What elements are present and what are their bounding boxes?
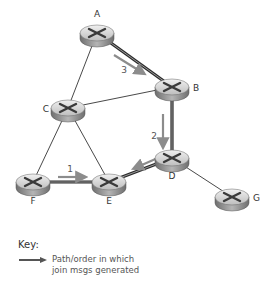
key-line-2: join msgs generated [52, 265, 139, 276]
join-order-label: 3 [121, 65, 127, 75]
router-label-B: B [193, 83, 199, 93]
router-A[interactable] [80, 25, 114, 47]
network-diagram: 123 ABCDEFG [0, 0, 277, 291]
join-order-label: 2 [151, 131, 157, 141]
router-C[interactable] [51, 100, 85, 122]
router-E[interactable] [92, 174, 126, 196]
router-label-D: D [169, 171, 176, 181]
router-B[interactable] [155, 79, 189, 101]
join-order-label: 1 [67, 164, 73, 174]
router-label-E: E [106, 196, 112, 206]
router-label-F: F [30, 196, 35, 206]
router-F[interactable] [16, 174, 50, 196]
key-title: Key: [18, 239, 39, 250]
router-D[interactable] [155, 150, 189, 172]
key-entry: Path/order in which join msgs generated [18, 254, 139, 276]
key-line-1: Path/order in which [52, 254, 139, 265]
router-label-C: C [43, 104, 49, 114]
router-label-G: G [253, 193, 260, 203]
router-label-A: A [94, 9, 101, 19]
key-arrow-icon [18, 255, 48, 265]
router-G[interactable] [215, 189, 249, 211]
key-description: Path/order in which join msgs generated [52, 254, 139, 276]
